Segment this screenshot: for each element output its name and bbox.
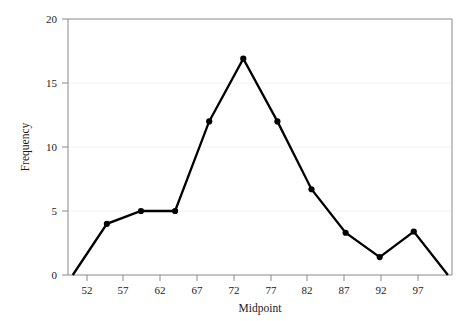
- data-point: [274, 118, 280, 124]
- y-tick-label-10: 10: [46, 141, 58, 153]
- x-tick-label-82: 82: [302, 284, 313, 296]
- data-point: [172, 208, 178, 214]
- data-point: [138, 208, 144, 214]
- data-point: [206, 118, 212, 124]
- x-tick-label-57: 57: [118, 284, 130, 296]
- x-tick-label-52: 52: [82, 284, 93, 296]
- x-tick-labels: 52 57 62 67 72 77 82 87 92 97: [82, 284, 425, 296]
- y-tick-label-15: 15: [46, 77, 58, 89]
- y-tick-label-20: 20: [46, 13, 58, 25]
- data-point: [377, 254, 383, 260]
- x-tickmarks: [87, 275, 418, 281]
- y-axis-title: Frequency: [19, 122, 32, 171]
- data-point: [240, 56, 246, 62]
- x-tick-label-77: 77: [266, 284, 278, 296]
- y-tick-label-5: 5: [52, 205, 58, 217]
- data-point: [308, 186, 314, 192]
- x-tick-label-97: 97: [413, 284, 425, 296]
- x-tick-label-62: 62: [155, 284, 166, 296]
- chart-canvas: 20 15 10 5 0 52 57 62 67 72 77 8: [0, 0, 474, 321]
- x-axis-title: Midpoint: [239, 302, 283, 315]
- x-tick-label-72: 72: [229, 284, 240, 296]
- x-tick-label-87: 87: [339, 284, 351, 296]
- x-tick-label-67: 67: [192, 284, 204, 296]
- frequency-polygon-figure: 20 15 10 5 0 52 57 62 67 72 77 8: [0, 0, 474, 321]
- data-point: [411, 228, 417, 234]
- y-tick-label-0: 0: [52, 269, 58, 281]
- data-point: [343, 230, 349, 236]
- x-tick-label-92: 92: [376, 284, 387, 296]
- data-point: [104, 221, 110, 227]
- y-tickmarks: [62, 19, 68, 275]
- y-tick-labels: 20 15 10 5 0: [46, 13, 58, 281]
